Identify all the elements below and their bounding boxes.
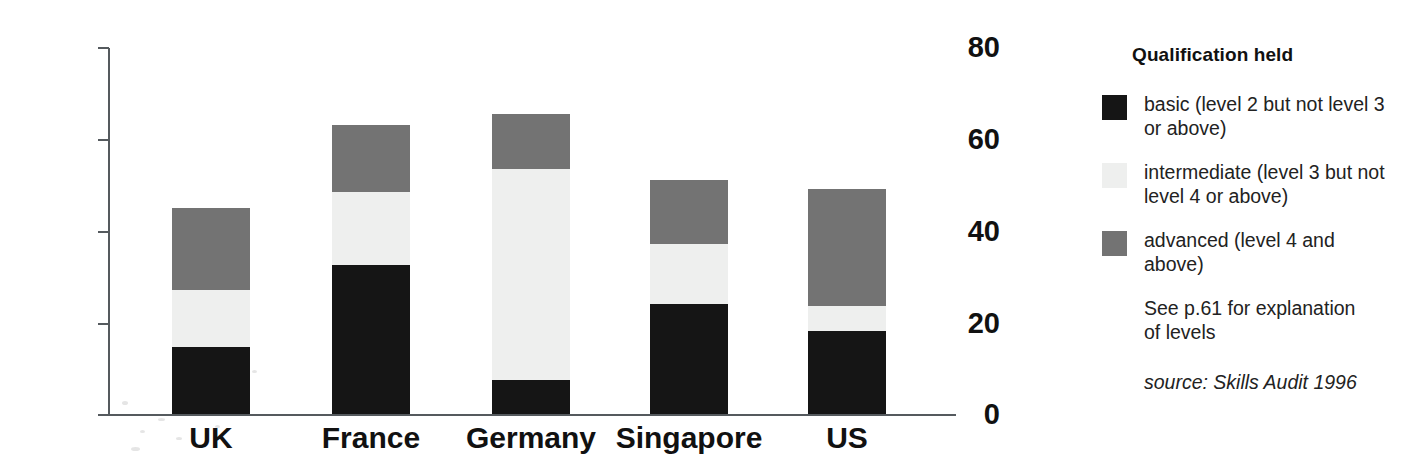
bar-segment-uk-basic [172, 347, 250, 414]
bar-segment-us-advanced [808, 189, 886, 306]
legend-title: Qualification held [1132, 44, 1402, 66]
bar-segment-germany-basic [492, 380, 570, 414]
y-tick-20 [98, 323, 109, 325]
bar-segment-uk-advanced [172, 208, 250, 291]
bar-us [808, 189, 886, 414]
legend-source: source: Skills Audit 1996 [1144, 370, 1402, 394]
legend-swatch-basic [1102, 95, 1127, 120]
bar-germany [492, 114, 570, 414]
bar-segment-france-basic [332, 265, 410, 414]
legend-note: See p.61 for explanation of levels [1144, 296, 1402, 344]
legend-item-basic: basic (level 2 but not level 3 or above) [1102, 92, 1402, 140]
bar-segment-france-advanced [332, 125, 410, 192]
legend-label-intermediate: intermediate (level 3 but not level 4 or… [1144, 160, 1402, 208]
bar-segment-uk-intermediate [172, 290, 250, 347]
legend-item-intermediate: intermediate (level 3 but not level 4 or… [1102, 160, 1402, 208]
bar-segment-singapore-basic [650, 304, 728, 414]
legend-swatch-advanced [1102, 231, 1127, 256]
legend-label-advanced: advanced (level 4 and above) [1144, 228, 1402, 276]
bar-segment-germany-advanced [492, 114, 570, 169]
bar-segment-us-intermediate [808, 306, 886, 331]
legend-label-basic: basic (level 2 but not level 3 or above) [1144, 92, 1402, 140]
y-tick-0 [98, 414, 109, 416]
y-tick-label-60: 60 [914, 125, 1000, 154]
y-tick-label-80: 80 [914, 33, 1000, 62]
chart-legend: Qualification held basic (level 2 but no… [1102, 44, 1402, 394]
bar-segment-singapore-advanced [650, 180, 728, 244]
y-tick-60 [98, 139, 109, 141]
bar-segment-us-basic [808, 331, 886, 414]
legend-item-advanced: advanced (level 4 and above) [1102, 228, 1402, 276]
legend-swatch-intermediate [1102, 163, 1127, 188]
bar-france [332, 125, 410, 414]
bar-segment-singapore-intermediate [650, 244, 728, 304]
y-tick-40 [98, 231, 109, 233]
bar-uk [172, 208, 250, 414]
bar-singapore [650, 180, 728, 414]
y-tick-80 [98, 47, 109, 49]
y-tick-label-40: 40 [914, 217, 1000, 246]
bar-segment-germany-intermediate [492, 169, 570, 380]
y-tick-label-20: 20 [914, 309, 1000, 338]
x-axis-line [108, 414, 956, 416]
bar-segment-france-intermediate [332, 192, 410, 265]
stacked-bar-chart: 80 60 40 20 0 UKFranceGermanySingaporeUS [0, 0, 1000, 475]
x-tick-label-us: US [747, 421, 947, 454]
